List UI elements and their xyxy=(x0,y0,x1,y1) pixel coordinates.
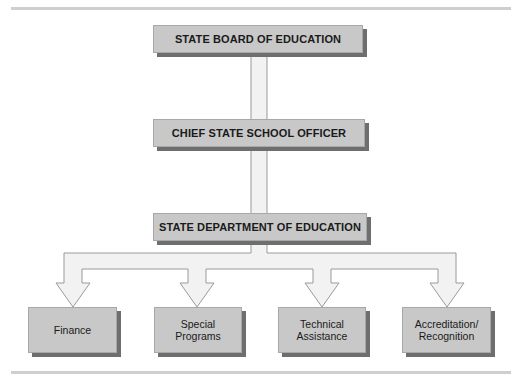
special-programs-box: Special Programs xyxy=(154,307,242,353)
technical-assistance-box: Technical Assistance xyxy=(278,307,366,353)
bottom-rule xyxy=(11,371,511,374)
connector-board-chief xyxy=(251,53,267,120)
state-board-of-education-label: STATE BOARD OF EDUCATION xyxy=(175,33,341,45)
state-department-of-education-box: STATE DEPARTMENT OF EDUCATION xyxy=(153,213,367,241)
connector-chief-department xyxy=(251,147,267,214)
finance-box: Finance xyxy=(28,307,117,353)
state-department-of-education-label: STATE DEPARTMENT OF EDUCATION xyxy=(159,221,361,233)
accreditation-recognition-box: Accreditation/ Recognition xyxy=(402,307,491,353)
special-programs-label: Special Programs xyxy=(175,318,221,342)
technical-assistance-label: Technical Assistance xyxy=(297,318,348,342)
chief-state-school-officer-box: CHIEF STATE SCHOOL OFFICER xyxy=(153,119,365,147)
accreditation-recognition-label: Accreditation/ Recognition xyxy=(415,318,479,342)
branch-arrows xyxy=(56,241,464,307)
finance-label: Finance xyxy=(54,324,91,336)
state-board-of-education-box: STATE BOARD OF EDUCATION xyxy=(153,25,363,53)
chief-state-school-officer-label: CHIEF STATE SCHOOL OFFICER xyxy=(172,127,346,139)
